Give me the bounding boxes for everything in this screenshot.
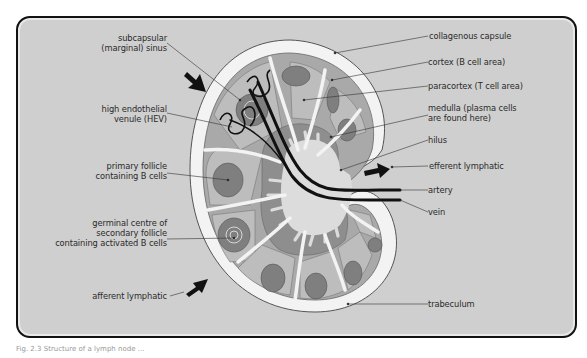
label-efferent-lymphatic: efferent lymphatic	[429, 161, 504, 171]
label-line: containing B cells	[96, 171, 167, 181]
label-paracortex: paracortex (T cell area)	[428, 81, 523, 91]
label-line: collagenous capsule	[429, 31, 511, 41]
label-medulla: medulla (plasma cells are found here)	[428, 103, 517, 123]
efferent-arrow	[364, 163, 390, 178]
label-collagenous-capsule: collagenous capsule	[429, 31, 511, 41]
label-germinal-centre: germinal centre of secondary follicle co…	[55, 218, 167, 248]
lymph-node-diagram	[0, 0, 587, 358]
afferent-arrow-bottom	[186, 279, 208, 297]
label-afferent-lymphatic: afferent lymphatic	[92, 291, 167, 301]
label-cortex: cortex (B cell area)	[428, 57, 505, 67]
label-primary-follicle: primary follicle containing B cells	[96, 161, 167, 181]
label-vein: vein	[428, 207, 445, 217]
lymph-node-body	[190, 40, 400, 312]
label-line: containing activated B cells	[55, 238, 167, 248]
label-hilus: hilus	[428, 135, 447, 145]
label-line: high endothelial	[102, 104, 167, 114]
label-line: venule (HEV)	[102, 114, 167, 124]
label-artery: artery	[428, 185, 453, 195]
label-line: primary follicle	[96, 161, 167, 171]
label-line: artery	[428, 185, 453, 195]
label-line: afferent lymphatic	[92, 291, 167, 301]
label-line: hilus	[428, 135, 447, 145]
label-line: germinal centre of	[55, 218, 167, 228]
label-line: subcapsular	[101, 33, 167, 43]
label-hev: high endothelial venule (HEV)	[102, 104, 167, 124]
label-line: medulla (plasma cells	[428, 103, 517, 113]
label-line: (marginal) sinus	[101, 43, 167, 53]
afferent-arrow-top	[184, 72, 206, 92]
label-line: cortex (B cell area)	[428, 57, 505, 67]
figure-caption: Fig. 2.3 Structure of a lymph node ...	[16, 345, 144, 353]
label-subcapsular-sinus: subcapsular (marginal) sinus	[101, 33, 167, 53]
label-line: paracortex (T cell area)	[428, 81, 523, 91]
label-line: efferent lymphatic	[429, 161, 504, 171]
label-line: vein	[428, 207, 445, 217]
label-line: trabeculum	[428, 299, 475, 309]
label-trabeculum: trabeculum	[428, 299, 475, 309]
label-line: are found here)	[428, 113, 517, 123]
label-line: secondary follicle	[55, 228, 167, 238]
